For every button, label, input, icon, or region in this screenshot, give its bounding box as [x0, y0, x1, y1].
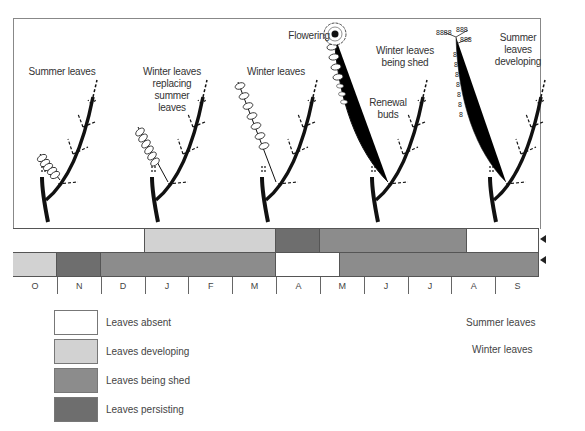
segment-absent: [467, 229, 539, 252]
svg-text:8: 8: [457, 91, 461, 98]
segment-developing: [145, 229, 277, 252]
segment-developing: [13, 253, 57, 276]
segment-being-shed: [101, 253, 276, 276]
arrow-summer-icon: [540, 235, 546, 243]
month-label: S: [495, 277, 539, 294]
month-label: M: [320, 277, 364, 294]
legend-absent: Leaves absent: [54, 310, 244, 336]
segment-persisting: [57, 253, 101, 276]
flowering-label: Flowering: [279, 30, 339, 42]
month-label: N: [57, 277, 101, 294]
month-axis: ONDJFMAMJJAS: [13, 276, 539, 294]
winter-leaves-row: [13, 252, 539, 276]
stage-1-label: Summer leaves: [22, 66, 102, 78]
svg-text:8: 8: [453, 51, 457, 58]
svg-text:8: 8: [455, 71, 459, 78]
legend-persisting: Leaves persisting: [54, 397, 244, 423]
month-label: D: [101, 277, 145, 294]
month-label: F: [188, 277, 232, 294]
month-label: M: [232, 277, 276, 294]
month-label: O: [13, 277, 57, 294]
plant-stage-1: [36, 80, 97, 222]
swatch-persisting: [54, 397, 98, 422]
stage-3-label: Winter leaves: [236, 66, 316, 78]
legend-developing: Leaves developing: [54, 339, 244, 365]
swatch-being-shed: [54, 368, 98, 393]
month-label: A: [451, 277, 495, 294]
svg-text:8888: 8888: [436, 29, 452, 36]
legend-being-shed: Leaves being shed: [54, 368, 244, 394]
renewal-buds-label: Renewal buds: [363, 97, 413, 121]
month-label: A: [276, 277, 320, 294]
svg-text:8: 8: [456, 81, 460, 88]
svg-text:8: 8: [459, 111, 463, 118]
svg-text:888: 888: [456, 26, 468, 33]
segment-being-shed: [340, 253, 539, 276]
month-label: J: [364, 277, 408, 294]
swatch-developing: [54, 339, 98, 364]
summer-leaves-row: [13, 228, 539, 252]
svg-text:8: 8: [454, 61, 458, 68]
stage-5-label: Summer leaves developing: [488, 32, 548, 68]
segment-persisting: [276, 229, 320, 252]
svg-text:888: 888: [460, 36, 472, 43]
timeline: ONDJFMAMJJAS: [13, 228, 539, 294]
arrow-winter-icon: [540, 256, 546, 264]
segment-absent: [276, 253, 340, 276]
winter-leaves-row-label: Winter leaves: [472, 344, 533, 355]
month-label: J: [408, 277, 452, 294]
segment-absent: [13, 229, 145, 252]
stage-2-label: Winter leaves replacing summer leaves: [132, 66, 212, 114]
summer-leaves-row-label: Summer leaves: [466, 317, 535, 328]
stage-4-label: Winter leaves being shed: [365, 45, 445, 69]
month-label: J: [145, 277, 189, 294]
svg-text:8: 8: [458, 101, 462, 108]
swatch-absent: [54, 310, 98, 335]
plant-stage-3: [234, 80, 317, 222]
segment-being-shed: [320, 229, 467, 252]
